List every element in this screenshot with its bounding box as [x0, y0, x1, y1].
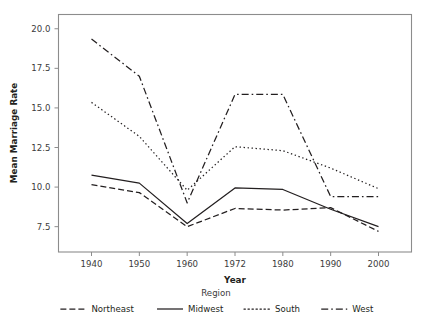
x-tick-label: 1990 [320, 259, 342, 269]
legend-label-northeast: Northeast [91, 304, 134, 314]
legend-label-south: South [275, 304, 300, 314]
y-tick-label: 10.0 [31, 182, 50, 192]
y-tick-label: 12.5 [31, 143, 50, 153]
y-tick-label: 15.0 [31, 103, 50, 113]
y-axis-title: Mean Marriage Rate [9, 83, 19, 184]
x-tick-label: 1972 [224, 259, 246, 269]
y-tick-label: 17.5 [31, 63, 50, 73]
legend-label-midwest: Midwest [188, 304, 224, 314]
y-tick-label: 20.0 [31, 24, 50, 34]
y-tick-label: 7.5 [37, 222, 51, 232]
chart-figure: 7.510.012.515.017.520.0 1940195019601972… [0, 0, 432, 327]
x-tick-label: 2000 [368, 259, 390, 269]
legend-title: Region [201, 288, 230, 298]
x-tick-label: 1940 [81, 259, 103, 269]
legend-label-west: West [352, 304, 374, 314]
x-tick-label: 1960 [176, 259, 198, 269]
x-tick-label: 1950 [128, 259, 150, 269]
x-axis-title: Year [223, 275, 246, 285]
x-tick-label: 1980 [272, 259, 294, 269]
line-chart: 7.510.012.515.017.520.0 1940195019601972… [0, 0, 432, 327]
chart-background [0, 0, 432, 327]
